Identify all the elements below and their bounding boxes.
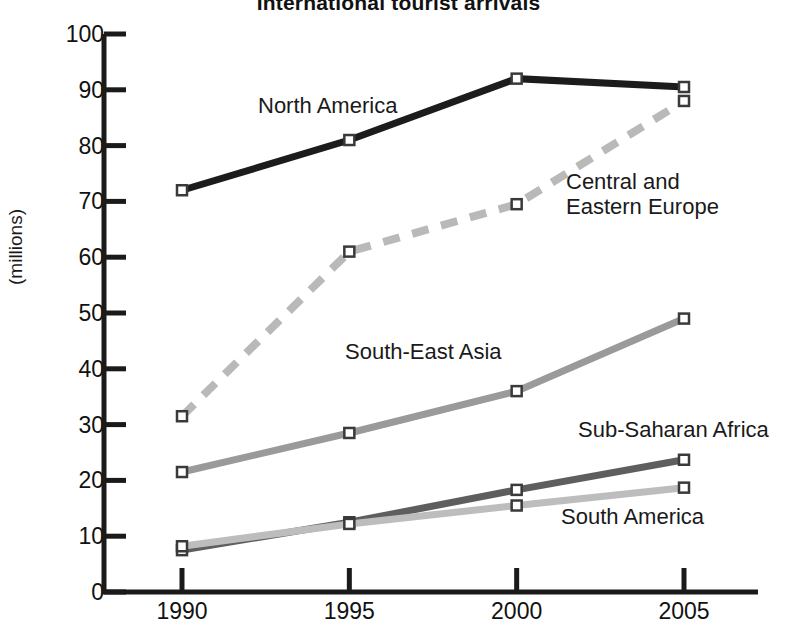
chart-container: International tourist arrivals (millions… <box>0 0 797 638</box>
series-marker-central-and-eastern-europe-1990 <box>177 411 187 421</box>
series-label-north-america: North America <box>258 94 397 119</box>
series-label-central-eastern-europe: Central andEastern Europe <box>566 170 719 219</box>
series-marker-sub-saharan-africa-2005 <box>679 455 689 465</box>
series-marker-north-america-1995 <box>344 135 354 145</box>
series-marker-north-america-2005 <box>679 82 689 92</box>
series-marker-south-east-asia-2000 <box>512 386 522 396</box>
series-marker-south-east-asia-1990 <box>177 467 187 477</box>
series-marker-central-and-eastern-europe-2000 <box>512 199 522 209</box>
series-label-line2: Eastern Europe <box>566 194 719 219</box>
series-marker-south-america-1995 <box>344 519 354 529</box>
series-marker-south-america-2000 <box>512 501 522 511</box>
series-marker-south-america-1990 <box>177 541 187 551</box>
plot-area <box>0 0 797 638</box>
series-marker-north-america-2000 <box>512 74 522 84</box>
series-label-south-america: South America <box>561 505 704 530</box>
series-marker-central-and-eastern-europe-1995 <box>344 247 354 257</box>
series-marker-sub-saharan-africa-2000 <box>512 485 522 495</box>
series-marker-north-america-1990 <box>177 185 187 195</box>
series-marker-south-east-asia-2005 <box>679 314 689 324</box>
series-marker-south-east-asia-1995 <box>344 428 354 438</box>
series-label-south-east-asia: South-East Asia <box>345 340 502 365</box>
series-label-sub-saharan-africa: Sub-Saharan Africa <box>578 418 769 443</box>
series-marker-central-and-eastern-europe-2005 <box>679 96 689 106</box>
series-line-central-and-eastern-europe <box>182 101 684 416</box>
series-marker-south-america-2005 <box>679 483 689 493</box>
series-label-line1: Central and <box>566 169 680 194</box>
